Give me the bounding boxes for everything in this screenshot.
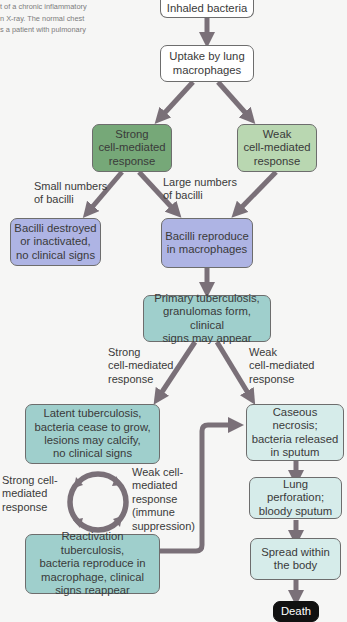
edge-label-small-numbers: Small numbers of bacilli xyxy=(34,180,107,207)
node-label: Lung perforation; bloody sputum xyxy=(253,478,338,518)
node-label: Weak cell-mediated response xyxy=(243,128,310,168)
edge-label-strong-cmr: Strong cell-mediated response xyxy=(108,346,173,386)
node-label: Bacilli destroyed or inactivated, no cli… xyxy=(14,222,96,262)
node-label: Uptake by lung macrophages xyxy=(169,50,244,77)
node-death: Death xyxy=(273,601,319,622)
arrow-primary-to-caseous xyxy=(217,342,251,398)
node-uptake-by-lung-macrophages: Uptake by lung macrophages xyxy=(160,45,254,82)
node-label: Bacilli reproduce in macrophages xyxy=(165,230,249,257)
cycle-arrowheads xyxy=(73,476,122,528)
node-bacilli-reproduce: Bacilli reproduce in macrophages xyxy=(161,218,253,268)
arrow-uptake-to-weak xyxy=(218,82,250,118)
node-strong-cell-mediated-response: Strong cell-mediated response xyxy=(92,124,172,172)
node-label: Spread within the body xyxy=(261,546,329,573)
node-label: Death xyxy=(281,605,311,618)
node-inhaled-bacteria: Inhaled bacteria xyxy=(160,0,254,18)
edge-label-weak-cycle: Weak cell- mediated response (immune sup… xyxy=(132,466,195,533)
edge-label-large-numbers: Large numbers of bacilli xyxy=(163,176,237,203)
node-primary-tuberculosis: Primary tuberculosis, granulomas form, c… xyxy=(143,295,271,342)
arrow-uptake-to-strong xyxy=(160,82,193,118)
node-label: Reactivation tuberculosis, bacteria repr… xyxy=(29,530,156,597)
arrow-weak-to-reproduce xyxy=(237,172,276,212)
node-spread-within-body: Spread within the body xyxy=(250,538,341,580)
node-weak-cell-mediated-response: Weak cell-mediated response xyxy=(237,124,317,172)
node-bacilli-destroyed: Bacilli destroyed or inactivated, no cli… xyxy=(10,218,101,266)
node-label: Latent tuberculosis, bacteria cease to g… xyxy=(34,407,150,461)
node-label: Caseous necrosis; bacteria released in s… xyxy=(250,406,340,460)
node-label: Primary tuberculosis, granulomas form, c… xyxy=(147,292,267,346)
edge-label-strong-cycle: Strong cell- mediated response xyxy=(2,474,58,514)
node-latent-tuberculosis: Latent tuberculosis, bacteria cease to g… xyxy=(25,404,160,464)
node-label: Strong cell-mediated response xyxy=(98,128,165,168)
node-caseous-necrosis: Caseous necrosis; bacteria released in s… xyxy=(246,404,344,461)
node-reactivation-tuberculosis: Reactivation tuberculosis, bacteria repr… xyxy=(25,534,160,594)
edge-label-weak-cmr: Weak cell-mediated response xyxy=(249,346,314,386)
node-lung-perforation: Lung perforation; bloody sputum xyxy=(249,477,342,519)
node-label: Inhaled bacteria xyxy=(167,2,247,15)
